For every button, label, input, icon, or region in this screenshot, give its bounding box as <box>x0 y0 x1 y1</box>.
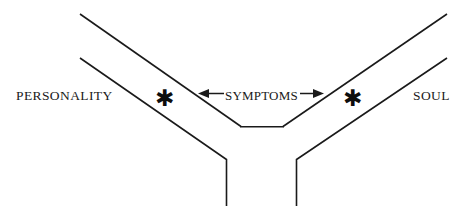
diagram-canvas: PERSONALITY SYMPTOMS SOUL ✱ ✱ <box>0 0 471 212</box>
asterisk-icon-left: ✱ <box>155 87 174 110</box>
left-arrow-icon <box>198 89 224 98</box>
inner-left-wall-line <box>80 58 227 206</box>
label-soul: SOUL <box>413 89 450 103</box>
outer-right-wall-line <box>283 14 447 127</box>
funnel-diagram-svg <box>0 0 471 212</box>
right-arrow-icon <box>300 89 324 98</box>
label-personality: PERSONALITY <box>16 89 113 103</box>
inner-right-wall-line <box>297 58 448 206</box>
label-symptoms: SYMPTOMS <box>225 89 298 102</box>
asterisk-icon-right: ✱ <box>343 87 362 110</box>
